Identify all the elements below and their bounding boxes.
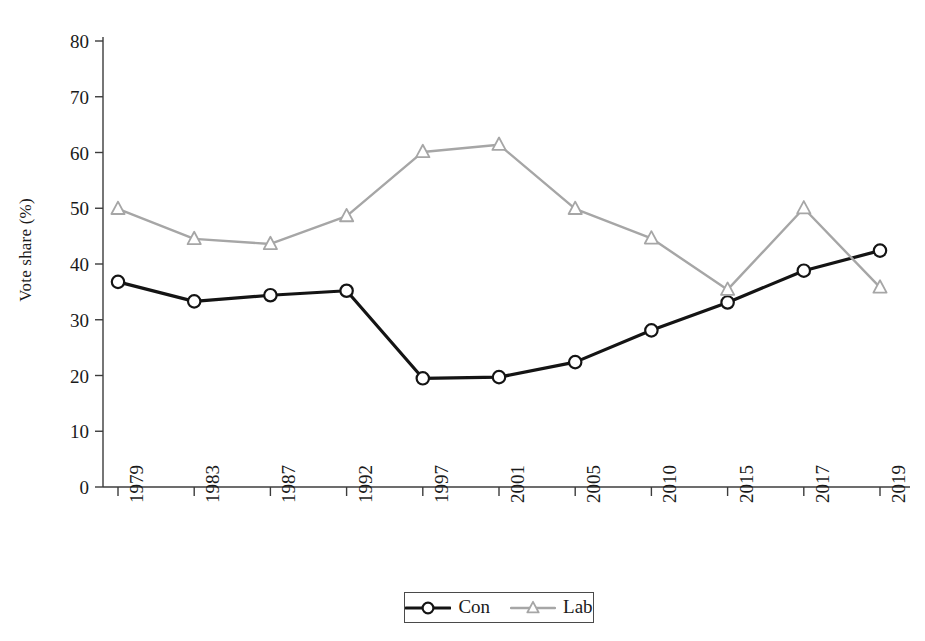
legend-marker-circle — [423, 602, 434, 613]
y-axis-tick-label: 60 — [45, 143, 95, 162]
data-point-marker — [264, 289, 276, 301]
y-axis-tick-label: 40 — [45, 255, 95, 274]
data-point-marker — [645, 324, 657, 336]
series-line-con — [118, 251, 880, 379]
y-axis-tick-label: 70 — [45, 87, 95, 106]
legend-label: Con — [458, 597, 490, 618]
data-point-marker — [874, 244, 886, 256]
data-point-marker — [111, 202, 124, 214]
chart-legend: ConLab — [404, 592, 594, 623]
data-point-marker — [721, 296, 733, 308]
legend-entry-lab[interactable]: Lab — [510, 597, 593, 618]
data-point-marker — [798, 264, 810, 276]
data-point-marker — [340, 285, 352, 297]
series-lab — [111, 138, 886, 295]
x-axis-tick-label: 2010 — [660, 465, 679, 503]
x-axis-tick-label: 1983 — [203, 465, 222, 503]
y-axis-tick-label: 30 — [45, 310, 95, 329]
x-axis-tick-label: 2019 — [889, 465, 908, 503]
y-axis-title: Vote share (%) — [6, 0, 46, 500]
data-point-marker — [493, 371, 505, 383]
y-axis-tick-label: 0 — [45, 478, 95, 497]
legend-label: Lab — [563, 597, 593, 618]
x-axis-tick-label: 2017 — [813, 465, 832, 503]
series-con — [112, 244, 886, 384]
legend-swatch-lab — [510, 599, 556, 617]
y-axis-tick-label: 80 — [45, 32, 95, 51]
x-axis-tick-label: 1987 — [279, 465, 298, 503]
x-axis-tick-label: 2015 — [737, 465, 756, 503]
data-point-marker — [112, 276, 124, 288]
plot-area — [0, 0, 925, 641]
legend-swatch-con — [405, 599, 451, 617]
y-axis-tick-label: 20 — [45, 366, 95, 385]
legend-entry-con[interactable]: Con — [405, 597, 490, 618]
data-point-marker — [569, 356, 581, 368]
x-axis-tick-label: 1997 — [432, 465, 451, 503]
vote-share-line-chart: Vote share (%) 01020304050607080 1979198… — [0, 0, 925, 641]
x-axis-tick-label: 1979 — [127, 465, 146, 503]
data-point-marker — [417, 372, 429, 384]
x-axis-tick-label: 2005 — [584, 465, 603, 503]
y-axis-tick-label: 10 — [45, 422, 95, 441]
data-point-marker — [188, 295, 200, 307]
data-point-marker — [492, 138, 505, 150]
series-line-lab — [118, 145, 880, 290]
x-axis-tick-label: 1992 — [356, 465, 375, 503]
y-axis-tick-label: 50 — [45, 199, 95, 218]
data-point-marker — [797, 201, 810, 213]
x-axis-tick-label: 2001 — [508, 465, 527, 503]
